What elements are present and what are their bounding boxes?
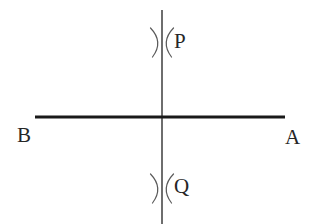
arc-Q-left <box>151 174 158 203</box>
construction-drawing <box>0 0 318 224</box>
point-label-A: A <box>285 127 300 148</box>
point-label-P: P <box>174 31 186 52</box>
arc-P-left <box>151 28 158 57</box>
geometry-figure-canvas: B A P Q <box>0 0 318 224</box>
point-label-B: B <box>17 125 31 146</box>
point-label-Q: Q <box>174 176 189 197</box>
arc-Q-right <box>166 174 173 203</box>
arc-P-right <box>166 28 173 57</box>
